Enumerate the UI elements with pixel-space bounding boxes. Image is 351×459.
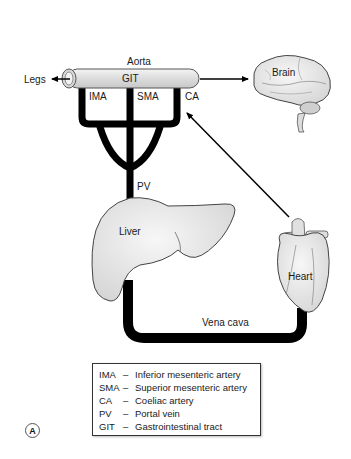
branch-left	[100, 127, 130, 168]
git-label: GIT	[122, 73, 139, 84]
legend-abbr: GIT	[99, 420, 123, 433]
legend-row-git: GIT – Gastrointestinal tract	[99, 420, 260, 433]
heart-illustration	[278, 219, 330, 313]
legend-meaning: Gastrointestinal tract	[135, 420, 222, 433]
legend-row-ca: CA – Coeliac artery	[99, 394, 260, 407]
vena-cava-vessel	[128, 280, 302, 338]
legend-row-pv: PV – Portal vein	[99, 407, 260, 420]
heart-label: Heart	[288, 271, 313, 282]
legend-meaning: Superior mesenteric artery	[135, 381, 247, 394]
legend-abbr: IMA	[99, 368, 123, 381]
legend-dash: –	[123, 381, 135, 394]
legend-meaning: Inferior mesenteric artery	[135, 368, 241, 381]
vena-cava-label: Vena cava	[202, 317, 249, 328]
legend-meaning: Portal vein	[135, 407, 180, 420]
legend-dash: –	[123, 420, 135, 433]
branch-right	[130, 127, 160, 168]
ima-label: IMA	[89, 91, 107, 102]
sma-label: SMA	[137, 91, 159, 102]
panel-label-a: A	[25, 423, 40, 438]
legend-abbr: PV	[99, 407, 123, 420]
ca-label: CA	[185, 91, 199, 102]
legs-label: Legs	[24, 74, 46, 85]
legend-dash: –	[123, 407, 135, 420]
pv-label: PV	[137, 181, 151, 192]
legend-box: IMA – Inferior mesenteric artery SMA – S…	[92, 363, 261, 436]
legend-meaning: Coeliac artery	[135, 394, 194, 407]
legend-abbr: SMA	[99, 381, 123, 394]
liver-illustration	[92, 198, 235, 301]
liver-label: Liver	[119, 226, 141, 237]
aorta-label: Aorta	[127, 56, 151, 67]
heart-to-ca-arrow	[187, 113, 289, 217]
legend-abbr: CA	[99, 394, 123, 407]
legend-row-ima: IMA – Inferior mesenteric artery	[99, 368, 260, 381]
legend-dash: –	[123, 394, 135, 407]
brain-label: Brain	[272, 67, 295, 78]
legend-dash: –	[123, 368, 135, 381]
legend-row-sma: SMA – Superior mesenteric artery	[99, 381, 260, 394]
